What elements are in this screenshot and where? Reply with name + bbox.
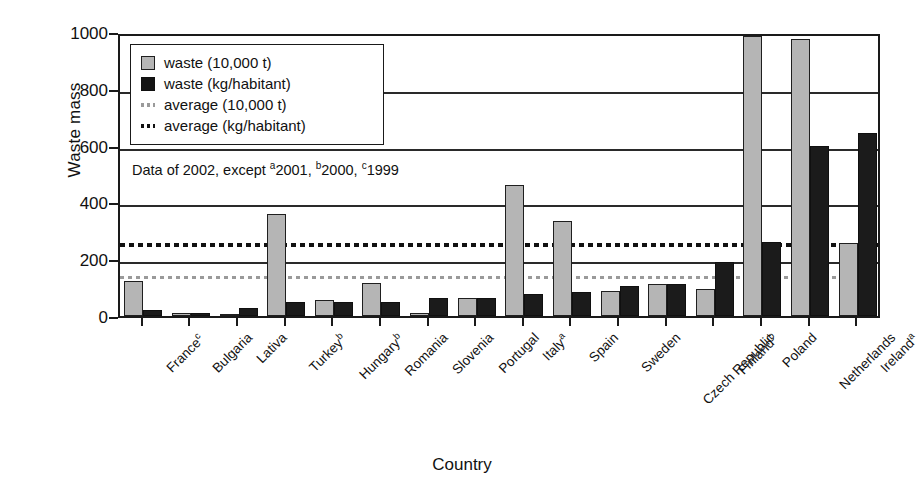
legend-label: average (kg/habitant) xyxy=(164,118,306,133)
x-tick-mark xyxy=(855,318,857,326)
x-axis-label-sweden: Sweden xyxy=(638,330,683,375)
bar-slovenia-tonnes xyxy=(410,313,429,316)
bar-sweden-per-habitant xyxy=(620,286,639,316)
x-tick-mark xyxy=(331,318,333,326)
bar-poland-per-habitant xyxy=(762,242,781,316)
x-axis-label-hungary: Hungaryb xyxy=(355,330,407,382)
bar-spain-per-habitant xyxy=(572,292,591,316)
y-tick-label: 0 xyxy=(54,309,108,326)
x-tick-mark xyxy=(284,318,286,326)
y-tick-mark xyxy=(109,90,118,92)
y-tick-mark xyxy=(109,260,118,262)
bar-france-tonnes xyxy=(124,281,143,317)
y-tick-label: 200 xyxy=(54,252,108,269)
bar-hungary-per-habitant xyxy=(334,302,353,316)
legend-swatch-dots-light-icon xyxy=(141,103,155,107)
legend-item: average (kg/habitant) xyxy=(141,115,375,136)
bar-ireland-tonnes xyxy=(839,243,858,316)
x-axis-title: Country xyxy=(0,455,924,475)
bar-ireland-per-habitant xyxy=(858,133,877,316)
bar-portugal-tonnes xyxy=(458,298,477,316)
legend-item: waste (10,000 t) xyxy=(141,52,375,73)
bar-france-per-habitant xyxy=(143,310,162,316)
y-axis-title: Waste mass xyxy=(65,50,85,210)
legend-swatch-gray-icon xyxy=(141,56,155,70)
x-axis-label-france: Francec xyxy=(162,330,207,375)
legend-item: waste (kg/habitant) xyxy=(141,73,375,94)
chart-legend: waste (10,000 t)waste (kg/habitant)avera… xyxy=(130,44,384,145)
bar-spain-tonnes xyxy=(553,221,572,316)
bar-slovenia-per-habitant xyxy=(429,298,448,316)
y-tick-mark xyxy=(109,33,118,35)
bar-sweden-tonnes xyxy=(601,291,620,316)
bar-bulgaria-tonnes xyxy=(172,313,191,316)
bar-turkey-per-habitant xyxy=(286,302,305,316)
legend-label: average (10,000 t) xyxy=(164,97,287,112)
bar-italy-per-habitant xyxy=(524,294,543,316)
x-tick-mark xyxy=(188,318,190,326)
waste-mass-bar-chart: Waste mass 02004006008001000 FrancecBulg… xyxy=(0,0,924,502)
x-axis-label-italy: Italya xyxy=(538,330,572,364)
y-tick-mark xyxy=(109,317,118,319)
y-tick-mark xyxy=(109,203,118,205)
y-tick-label: 800 xyxy=(54,82,108,99)
x-tick-mark xyxy=(379,318,381,326)
x-axis-label-spain: Spain xyxy=(587,330,622,365)
x-tick-mark xyxy=(617,318,619,326)
x-tick-mark xyxy=(427,318,429,326)
y-tick-label: 400 xyxy=(54,195,108,212)
x-tick-mark xyxy=(236,318,238,326)
data-year-note: Data of 2002, except a2001, b2000, c1999 xyxy=(132,160,399,178)
x-axis-label-portugal: Portugal xyxy=(496,330,542,376)
x-tick-mark xyxy=(141,318,143,326)
gridline xyxy=(120,149,878,151)
legend-swatch-black-icon xyxy=(141,77,155,91)
bar-romania-per-habitant xyxy=(381,302,400,316)
x-tick-mark xyxy=(569,318,571,326)
legend-label: waste (10,000 t) xyxy=(164,55,272,70)
bar-netherlands-tonnes xyxy=(791,39,810,316)
x-axis-label-romania: Romania xyxy=(402,330,451,379)
x-tick-mark xyxy=(474,318,476,326)
x-axis-label-poland: Poland xyxy=(779,330,819,370)
x-tick-mark xyxy=(760,318,762,326)
bar-netherlands-per-habitant xyxy=(810,146,829,316)
bar-turkey-tonnes xyxy=(267,214,286,316)
bar-italy-tonnes xyxy=(505,185,524,316)
legend-item: average (10,000 t) xyxy=(141,94,375,115)
x-axis-label-slovenia: Slovenia xyxy=(449,330,496,377)
bar-portugal-per-habitant xyxy=(477,298,496,316)
bar-czech-republic-per-habitant xyxy=(667,284,686,316)
x-tick-mark xyxy=(522,318,524,326)
bar-lativa-tonnes xyxy=(220,314,239,316)
bar-finland-per-habitant xyxy=(715,262,734,316)
x-tick-mark xyxy=(665,318,667,326)
x-axis-label-bulgaria: Bulgaria xyxy=(210,330,256,376)
x-axis-label-turkey: Turkeyb xyxy=(304,330,349,375)
y-tick-label: 600 xyxy=(54,139,108,156)
bar-bulgaria-per-habitant xyxy=(191,313,210,316)
y-tick-label: 1000 xyxy=(54,25,108,42)
x-tick-mark xyxy=(808,318,810,326)
bar-lativa-per-habitant xyxy=(239,308,258,316)
legend-swatch-dots-dark-icon xyxy=(141,124,155,128)
x-tick-mark xyxy=(712,318,714,326)
bar-romania-tonnes xyxy=(362,283,381,317)
legend-label: waste (kg/habitant) xyxy=(164,76,291,91)
bar-finland-tonnes xyxy=(696,289,715,316)
bar-poland-tonnes xyxy=(743,36,762,316)
bar-czech-republic-tonnes xyxy=(648,284,667,316)
x-axis-label-lativa: Lativa xyxy=(254,330,290,366)
bar-hungary-tonnes xyxy=(315,300,334,316)
gridline xyxy=(120,205,878,207)
y-tick-mark xyxy=(109,147,118,149)
